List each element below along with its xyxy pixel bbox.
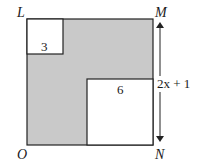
small-square-side-label: 3 — [41, 39, 48, 54]
side-length-label: 2x + 1 — [157, 76, 190, 91]
vertex-O: O — [17, 147, 27, 162]
vertex-L: L — [16, 5, 25, 20]
large-square-side-label: 6 — [117, 82, 124, 97]
vertex-N: N — [154, 147, 165, 162]
vertex-M: M — [154, 5, 168, 20]
diagram: L M N O 3 6 2x + 1 — [0, 0, 203, 167]
